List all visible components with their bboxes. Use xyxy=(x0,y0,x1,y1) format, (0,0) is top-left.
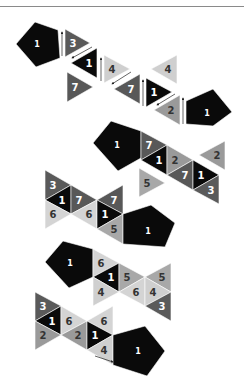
pentagon-face: 1 xyxy=(93,121,141,171)
face-label: 6 xyxy=(50,209,57,220)
face-label: 1 xyxy=(59,195,66,206)
face-label: 1 xyxy=(198,170,205,181)
face-label: 2 xyxy=(172,155,179,166)
triangle-face: 5 xyxy=(139,168,165,197)
face-label: 1 xyxy=(145,227,151,236)
face-label: 7 xyxy=(146,140,153,151)
face-label: 4 xyxy=(101,345,108,356)
face-label: 2 xyxy=(168,105,175,116)
face-label: 3 xyxy=(50,180,57,191)
face-label: 6 xyxy=(86,209,93,220)
face-label: 7 xyxy=(72,82,79,93)
pentagon-face: 1 xyxy=(186,89,232,126)
face-label: 4 xyxy=(150,287,157,298)
net-faces: 1317471421171271325316767151161456543312… xyxy=(16,22,232,376)
pentagon-face: 1 xyxy=(45,241,93,288)
pentagon-face: 1 xyxy=(123,205,175,247)
pentagon-face: 1 xyxy=(16,22,60,67)
face-label: 1 xyxy=(108,272,115,283)
face-label: 7 xyxy=(111,195,118,206)
polyhedron-nets-diagram: 1317471421171271325316767151161456543312… xyxy=(0,0,244,390)
face-shape xyxy=(186,89,232,126)
face-label: 7 xyxy=(76,195,83,206)
face-label: 1 xyxy=(92,330,99,341)
face-label: 4 xyxy=(109,64,116,75)
face-label: 4 xyxy=(165,64,172,75)
face-label: 2 xyxy=(75,330,82,341)
triangle-face: 7 xyxy=(67,72,93,102)
face-label: 3 xyxy=(70,38,77,49)
pentagon-face: 1 xyxy=(113,326,165,376)
face-label: 5 xyxy=(159,272,166,283)
face-label: 1 xyxy=(156,155,163,166)
face-label: 5 xyxy=(144,178,151,189)
face-label: 5 xyxy=(111,224,118,235)
face-label: 2 xyxy=(214,150,221,161)
face-label: 2 xyxy=(40,330,47,341)
face-label: 6 xyxy=(66,316,73,327)
face-label: 6 xyxy=(133,287,140,298)
face-label: 1 xyxy=(102,209,109,220)
face-label: 7 xyxy=(182,170,189,181)
face-label: 1 xyxy=(86,58,93,69)
triangle-face: 4 xyxy=(104,55,130,83)
face-label: 1 xyxy=(204,109,210,118)
triangle-face: 1 xyxy=(71,48,97,78)
face-label: 3 xyxy=(208,185,215,196)
triangle-face: 7 xyxy=(114,74,140,104)
face-label: 5 xyxy=(124,272,131,283)
face-label: 3 xyxy=(159,301,166,312)
face-label: 1 xyxy=(151,87,158,98)
face-shape xyxy=(71,48,97,78)
face-label: 1 xyxy=(67,259,73,268)
face-label: 1 xyxy=(49,316,56,327)
face-label: 6 xyxy=(101,316,108,327)
triangle-face: 3 xyxy=(65,29,90,57)
face-label: 1 xyxy=(34,40,40,49)
face-label: 3 xyxy=(40,301,47,312)
face-label: 7 xyxy=(128,84,135,95)
face-label: 4 xyxy=(98,287,105,298)
face-label: 6 xyxy=(98,258,105,269)
triangle-face: 4 xyxy=(151,55,177,84)
face-label: 1 xyxy=(114,141,120,150)
face-label: 1 xyxy=(135,347,141,356)
